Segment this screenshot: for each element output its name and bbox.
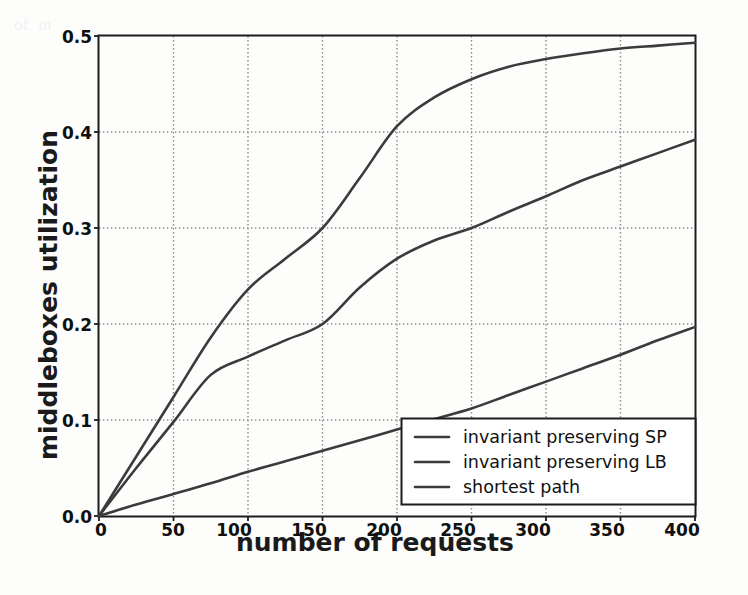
legend-label-1: invariant preserving SP <box>463 427 667 447</box>
legend-label-2: invariant preserving LB <box>463 452 667 472</box>
legend-label-3: shortest path <box>463 477 580 497</box>
plot-canvas: invariant preserving SPinvariant preserv… <box>0 0 748 595</box>
legend[interactable]: invariant preserving SPinvariant preserv… <box>402 419 696 505</box>
chart-figure: of m middleboxes utilization number of r… <box>0 0 748 595</box>
